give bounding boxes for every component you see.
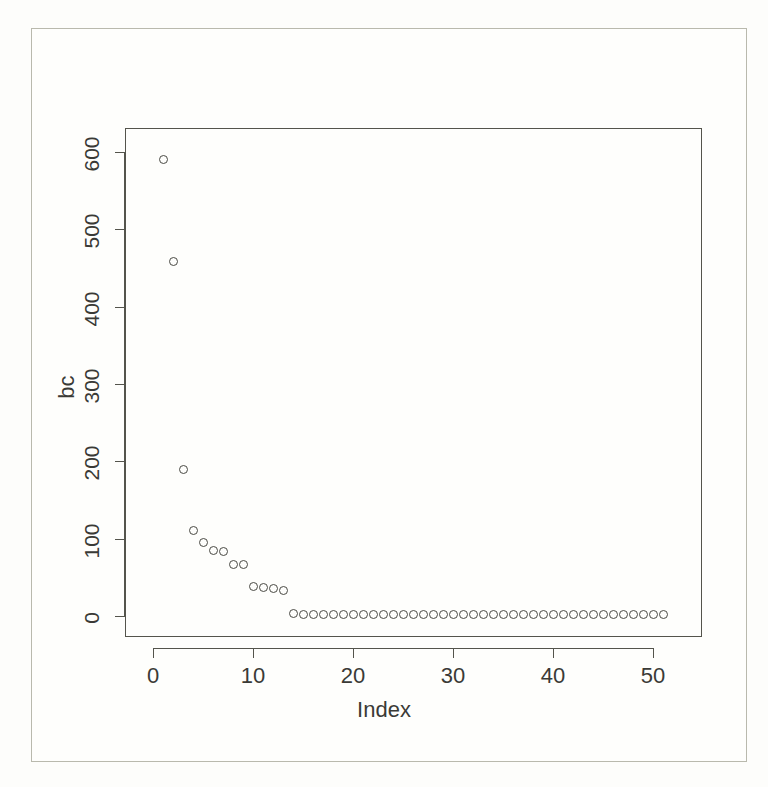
- y-axis-tick-mark: [115, 384, 125, 385]
- x-axis-title: Index: [0, 697, 768, 723]
- data-point: [339, 610, 348, 619]
- data-point: [639, 610, 648, 619]
- data-point: [229, 560, 238, 569]
- data-point: [299, 610, 308, 619]
- scatter-plot-area: [125, 128, 702, 637]
- x-axis-tick-label: 50: [623, 663, 683, 689]
- y-axis-tick-mark: [115, 229, 125, 230]
- y-axis-tick-mark: [115, 461, 125, 462]
- y-axis-tick-mark: [115, 539, 125, 540]
- data-point: [569, 610, 578, 619]
- x-axis-tick-mark: [353, 648, 354, 658]
- y-axis-tick-label-text: 400: [80, 289, 104, 329]
- x-axis-tick-mark: [153, 648, 154, 658]
- data-point: [589, 610, 598, 619]
- data-point: [249, 582, 258, 591]
- data-point: [659, 610, 668, 619]
- data-point: [619, 610, 628, 619]
- data-point: [329, 610, 338, 619]
- y-axis-tick-mark: [115, 152, 125, 153]
- data-point: [269, 584, 278, 593]
- data-point: [399, 610, 408, 619]
- data-point: [509, 610, 518, 619]
- data-point: [469, 610, 478, 619]
- data-point: [489, 610, 498, 619]
- data-point: [239, 560, 248, 569]
- data-point: [359, 610, 368, 619]
- data-point: [609, 610, 618, 619]
- data-point: [409, 610, 418, 619]
- y-axis-tick-label-text: 0: [80, 598, 104, 638]
- x-axis-tick-label: 40: [523, 663, 583, 689]
- y-axis-tick-mark: [115, 616, 125, 617]
- x-axis-tick-mark: [553, 648, 554, 658]
- data-point: [479, 610, 488, 619]
- y-axis-tick-label: 0: [72, 606, 112, 626]
- y-axis-tick-label-text: 100: [80, 521, 104, 561]
- data-point: [539, 610, 548, 619]
- data-point: [549, 610, 558, 619]
- data-point: [429, 610, 438, 619]
- data-point: [279, 586, 288, 595]
- y-axis-title: bc: [52, 365, 82, 409]
- data-point: [199, 538, 208, 547]
- y-axis-tick-label: 100: [72, 529, 112, 549]
- x-axis-tick-label: 20: [323, 663, 383, 689]
- data-point: [259, 583, 268, 592]
- data-point: [379, 610, 388, 619]
- data-point: [599, 610, 608, 619]
- data-point: [319, 610, 328, 619]
- y-axis-tick-label: 500: [72, 219, 112, 239]
- data-point: [309, 610, 318, 619]
- data-point: [629, 610, 638, 619]
- x-axis-tick-label: 30: [423, 663, 483, 689]
- data-point: [159, 155, 168, 164]
- x-axis-tick-label: 0: [123, 663, 183, 689]
- y-axis-tick-label: 400: [72, 297, 112, 317]
- data-point: [529, 610, 538, 619]
- data-point: [189, 526, 198, 535]
- data-point: [349, 610, 358, 619]
- data-point: [439, 610, 448, 619]
- data-point: [579, 610, 588, 619]
- data-point: [649, 610, 658, 619]
- data-point: [169, 257, 178, 266]
- y-axis-tick-mark: [115, 307, 125, 308]
- data-point: [219, 547, 228, 556]
- y-axis-tick-label-text: 500: [80, 211, 104, 251]
- x-axis-tick-label: 10: [223, 663, 283, 689]
- data-point: [419, 610, 428, 619]
- y-axis-tick-label-text: 600: [80, 134, 104, 174]
- data-point: [519, 610, 528, 619]
- y-axis-tick-label-text: 200: [80, 443, 104, 483]
- x-axis-tick-mark: [453, 648, 454, 658]
- data-point: [449, 610, 458, 619]
- data-point: [459, 610, 468, 619]
- data-point: [389, 610, 398, 619]
- x-axis-tick-mark: [653, 648, 654, 658]
- data-point: [559, 610, 568, 619]
- y-axis-tick-label: 200: [72, 451, 112, 471]
- data-point: [289, 609, 298, 618]
- y-axis-tick-label-text: 300: [80, 366, 104, 406]
- data-point: [369, 610, 378, 619]
- y-axis-tick-label: 600: [72, 142, 112, 162]
- data-point: [499, 610, 508, 619]
- x-axis-line: [153, 648, 653, 649]
- data-point: [179, 465, 188, 474]
- figure-root: 0100200300400500600 01020304050 bc Index: [0, 0, 768, 787]
- x-axis-tick-mark: [253, 648, 254, 658]
- data-point: [209, 546, 218, 555]
